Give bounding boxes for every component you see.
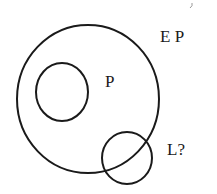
outer-circle-label: E P (160, 28, 184, 45)
overlap-circle-label: L? (167, 141, 185, 158)
venn-diagram (0, 0, 217, 194)
top-mark (190, 3, 192, 8)
inner-region-label: P (105, 73, 114, 90)
overlap-circle (102, 132, 152, 184)
inner-circle (36, 63, 88, 121)
